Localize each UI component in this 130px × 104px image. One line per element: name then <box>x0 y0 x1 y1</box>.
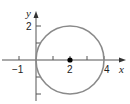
circle-diagram: y 2 −1 2 4 x <box>0 0 130 104</box>
x-axis-arrow-icon <box>119 58 126 63</box>
x-axis <box>2 56 126 63</box>
y-tick-label-2: 2 <box>26 21 32 32</box>
x-tick-label-4: 4 <box>104 64 110 75</box>
x-axis-label: x <box>118 63 124 75</box>
center-point <box>67 57 72 62</box>
x-tick-label-neg1: −1 <box>12 64 24 75</box>
y-axis-label: y <box>25 7 31 19</box>
y-axis-arrow-icon <box>34 11 39 18</box>
x-tick-label-2: 2 <box>67 64 73 75</box>
y-axis <box>34 11 42 101</box>
